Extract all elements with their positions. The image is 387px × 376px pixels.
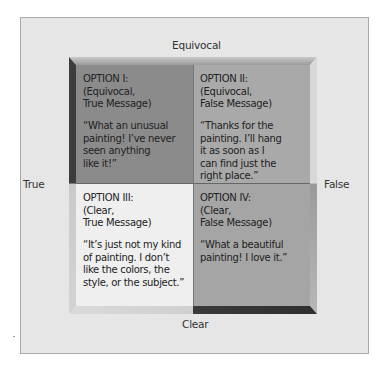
bevel-bottom (69, 306, 317, 314)
quote-line: “Thanks for the (200, 120, 310, 133)
quote-line: of painting. I don’t (83, 252, 193, 265)
quadrant-option-1: OPTION I: (Equivocal, True Message) “Wha… (76, 65, 193, 183)
quote-line: right place.” (200, 170, 310, 183)
quadrant-title: OPTION III: (Clear, True Message) (83, 192, 151, 230)
quote-line: can find just the (200, 158, 310, 171)
quote-line: “It’s just not my kind (83, 239, 193, 252)
bevel-right (310, 57, 317, 314)
quadrant-option-4: OPTION IV: (Clear, False Message) “What … (193, 183, 310, 306)
title-line: OPTION III: (83, 192, 151, 205)
quadrant-quote: “What an unusual painting! I’ve never se… (83, 120, 193, 170)
quadrant-title: OPTION II: (Equivocal, False Message) (200, 73, 272, 111)
title-line: (Equivocal, (83, 86, 151, 99)
quote-line: like the colors, the (83, 264, 193, 277)
title-line: (Clear, (200, 205, 272, 218)
option-matrix: OPTION I: (Equivocal, True Message) “Wha… (69, 57, 317, 314)
quadrant-title: OPTION I: (Equivocal, True Message) (83, 73, 151, 111)
title-line: True Message) (83, 98, 151, 111)
title-line: (Clear, (83, 205, 151, 218)
title-line: OPTION IV: (200, 192, 272, 205)
quadrant-option-2: OPTION II: (Equivocal, False Message) “T… (193, 65, 310, 183)
axis-label-false: False (324, 178, 349, 190)
axis-label-equivocal: Equivocal (172, 39, 221, 51)
title-line: OPTION I: (83, 73, 151, 86)
quote-line: painting! I love it.” (200, 252, 310, 265)
quadrant-quote: “Thanks for the painting. I’ll hang it a… (200, 120, 310, 183)
title-line: True Message) (83, 217, 151, 230)
title-line: False Message) (200, 217, 272, 230)
quote-line: style, or the subject.” (83, 277, 193, 290)
quadrant-option-3: OPTION III: (Clear, True Message) “It’s … (76, 183, 193, 306)
quote-line: “What an unusual (83, 120, 193, 133)
bevel-top (69, 57, 317, 65)
quote-line: it as soon as I (200, 145, 310, 158)
bevel-left (69, 57, 76, 314)
quote-line: “What a beautiful (200, 239, 310, 252)
title-line: False Message) (200, 98, 272, 111)
quadrant-title: OPTION IV: (Clear, False Message) (200, 192, 272, 230)
quote-line: painting! I’ve never (83, 133, 193, 146)
quote-line: painting. I’ll hang (200, 133, 310, 146)
title-line: OPTION II: (200, 73, 272, 86)
axis-label-clear: Clear (182, 318, 208, 330)
axis-label-true: True (23, 178, 45, 190)
quote-line: seen anything (83, 145, 193, 158)
quadrant-quote: “It’s just not my kind of painting. I do… (83, 239, 193, 289)
title-line: (Equivocal, (200, 86, 272, 99)
quadrant-quote: “What a beautiful painting! I love it.” (200, 239, 310, 264)
quote-line: like it!” (83, 158, 193, 171)
stray-mark (13, 336, 15, 337)
